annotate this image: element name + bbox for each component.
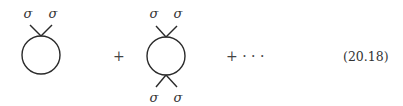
diagram-2-leg-top-left [156,26,166,37]
equation-number: (20.18) [343,50,389,63]
diagram-2-label-top-right: σ [174,7,183,20]
diagram-2 [147,26,185,87]
diagram-1-leg-top-left [30,25,41,36]
diagram-2-label-bottom-right: σ [174,91,183,104]
diagram-2-leg-bottom-left [156,75,166,87]
diagram-2-leg-bottom-right [166,75,177,87]
diagram-1-loop [22,36,60,74]
diagram-2-loop [147,37,185,75]
plus-ellipsis-operator: + · · · [226,49,264,63]
diagram-2-label-bottom-left: σ [150,91,159,104]
diagram-2-leg-top-right [166,26,177,37]
diagram-1 [22,25,60,74]
plus-operator: + [113,49,125,63]
diagram-1-leg-top-right [41,25,52,36]
diagram-1-label-top-right: σ [49,7,58,20]
diagram-1-label-top-left: σ [24,7,33,20]
diagram-2-label-top-left: σ [150,7,159,20]
